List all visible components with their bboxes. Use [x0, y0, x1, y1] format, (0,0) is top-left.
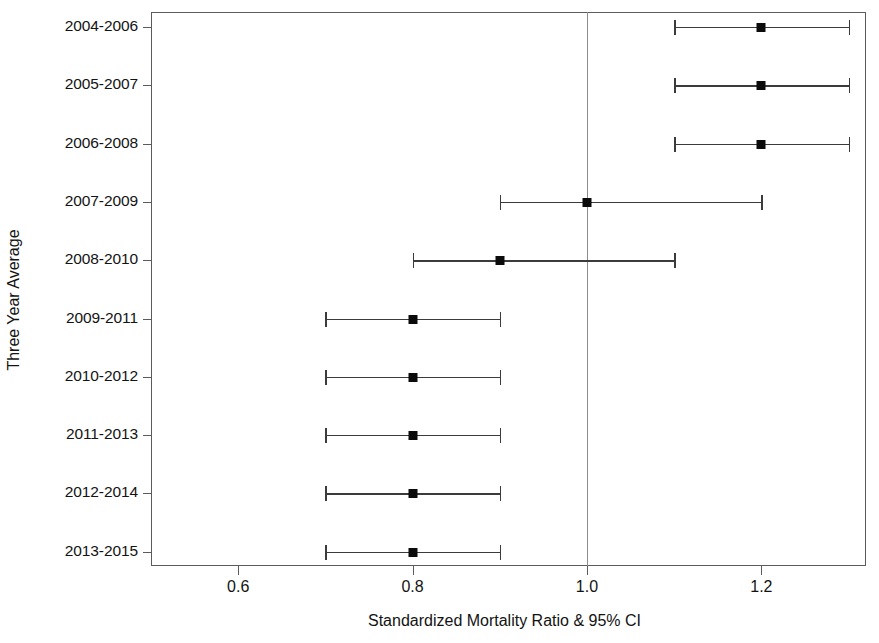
ci-row — [0, 249, 715, 271]
ci-row — [0, 541, 715, 563]
ci-row — [0, 308, 715, 330]
ci-whisker-line — [500, 202, 762, 203]
data-point-marker — [757, 81, 766, 90]
ci-upper-cap — [500, 428, 501, 443]
ci-lower-cap — [325, 545, 326, 560]
ci-upper-cap — [500, 312, 501, 327]
data-point-marker — [757, 23, 766, 32]
ci-row — [0, 482, 715, 504]
data-point-marker — [408, 489, 417, 498]
data-point-marker — [757, 140, 766, 149]
ci-row — [0, 366, 715, 388]
ci-upper-cap — [761, 195, 762, 210]
ci-upper-cap — [849, 78, 850, 93]
ci-lower-cap — [674, 78, 675, 93]
x-axis-title: Standardized Mortality Ratio & 95% CI — [0, 612, 879, 630]
ci-lower-cap — [674, 137, 675, 152]
ci-upper-cap — [500, 370, 501, 385]
ci-lower-cap — [325, 428, 326, 443]
ci-lower-cap — [325, 370, 326, 385]
data-point-marker — [495, 256, 504, 265]
ci-lower-cap — [325, 312, 326, 327]
data-point-marker — [408, 315, 417, 324]
ci-upper-cap — [849, 20, 850, 35]
ci-whisker-line — [413, 260, 675, 261]
x-tick-mark — [238, 566, 239, 575]
ci-row — [0, 16, 715, 38]
data-point-marker — [408, 431, 417, 440]
ci-row — [0, 74, 715, 96]
x-tick-label-1.0: 1.0 — [576, 578, 598, 596]
ci-lower-cap — [325, 486, 326, 501]
x-axis-title-text: Standardized Mortality Ratio & 95% CI — [368, 612, 641, 630]
ci-upper-cap — [500, 486, 501, 501]
ci-lower-cap — [413, 253, 414, 268]
ci-upper-cap — [849, 137, 850, 152]
ci-upper-cap — [500, 545, 501, 560]
x-tick-mark — [761, 566, 762, 575]
ci-lower-cap — [674, 20, 675, 35]
ci-lower-cap — [500, 195, 501, 210]
x-tick-label-1.2: 1.2 — [750, 578, 772, 596]
forest-plot: 2004-20062005-20072006-20082007-20092008… — [0, 0, 879, 643]
data-point-marker — [408, 548, 417, 557]
x-tick-label-0.8: 0.8 — [401, 578, 423, 596]
y-axis-title: Three Year Average — [5, 229, 23, 370]
ci-row — [0, 424, 715, 446]
data-point-marker — [582, 198, 591, 207]
x-tick-label-0.6: 0.6 — [227, 578, 249, 596]
data-point-marker — [408, 373, 417, 382]
x-tick-mark — [587, 566, 588, 575]
ci-row — [0, 191, 715, 213]
ci-upper-cap — [674, 253, 675, 268]
x-tick-mark — [413, 566, 414, 575]
ci-row — [0, 133, 715, 155]
